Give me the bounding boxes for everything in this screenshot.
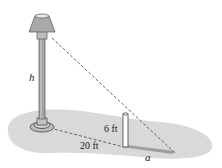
- shadow-length-label: a: [145, 152, 151, 163]
- lamp-pole: [39, 38, 45, 119]
- ground-patch: [8, 110, 212, 159]
- post: [123, 114, 128, 147]
- lamp-shade: [29, 16, 55, 32]
- diagram-svg: [0, 0, 222, 168]
- lamp-post-diagram: h 6 ft 20 ft a: [0, 0, 222, 168]
- lamp-height-label: h: [29, 72, 35, 83]
- lamp-shade-top: [35, 14, 49, 18]
- distance-label: 20 ft: [80, 141, 99, 151]
- post-top: [123, 113, 128, 115]
- post-height-label: 6 ft: [104, 124, 118, 134]
